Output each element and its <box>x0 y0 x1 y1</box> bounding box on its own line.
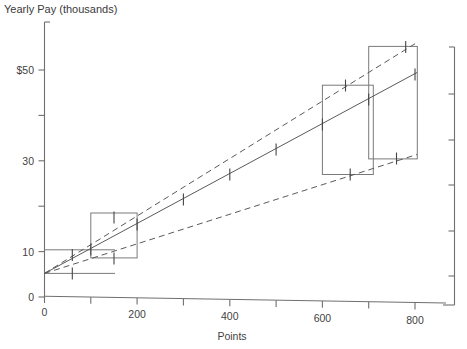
chart-canvas: Yearly Pay (thousands) 0 10 30 $50 0 200… <box>0 0 467 349</box>
upper-confidence-band-line <box>45 43 418 274</box>
lower-confidence-band-line <box>45 155 418 274</box>
interval-box-high-points-upper <box>322 85 373 174</box>
fitted-regression-line <box>45 73 418 274</box>
y-tick-label-50: $50 <box>16 64 34 76</box>
chart-title: Yearly Pay (thousands) <box>4 3 117 15</box>
x-axis-line <box>45 296 447 303</box>
y-tick-label-0: 0 <box>28 291 34 303</box>
y-tick-label-10: 10 <box>22 246 34 258</box>
x-tick-label-600: 600 <box>314 312 332 324</box>
x-tick-label-400: 400 <box>221 310 239 322</box>
x-tick-label-200: 200 <box>128 308 146 320</box>
interval-box-high-points-top <box>369 46 418 158</box>
chart-figure: Yearly Pay (thousands) 0 10 30 $50 0 200… <box>0 0 467 349</box>
x-tick-label-800: 800 <box>406 314 424 326</box>
x-axis-label: Points <box>217 330 246 342</box>
y-tick-label-30: 30 <box>22 155 34 167</box>
x-tick-label-0: 0 <box>42 306 48 318</box>
